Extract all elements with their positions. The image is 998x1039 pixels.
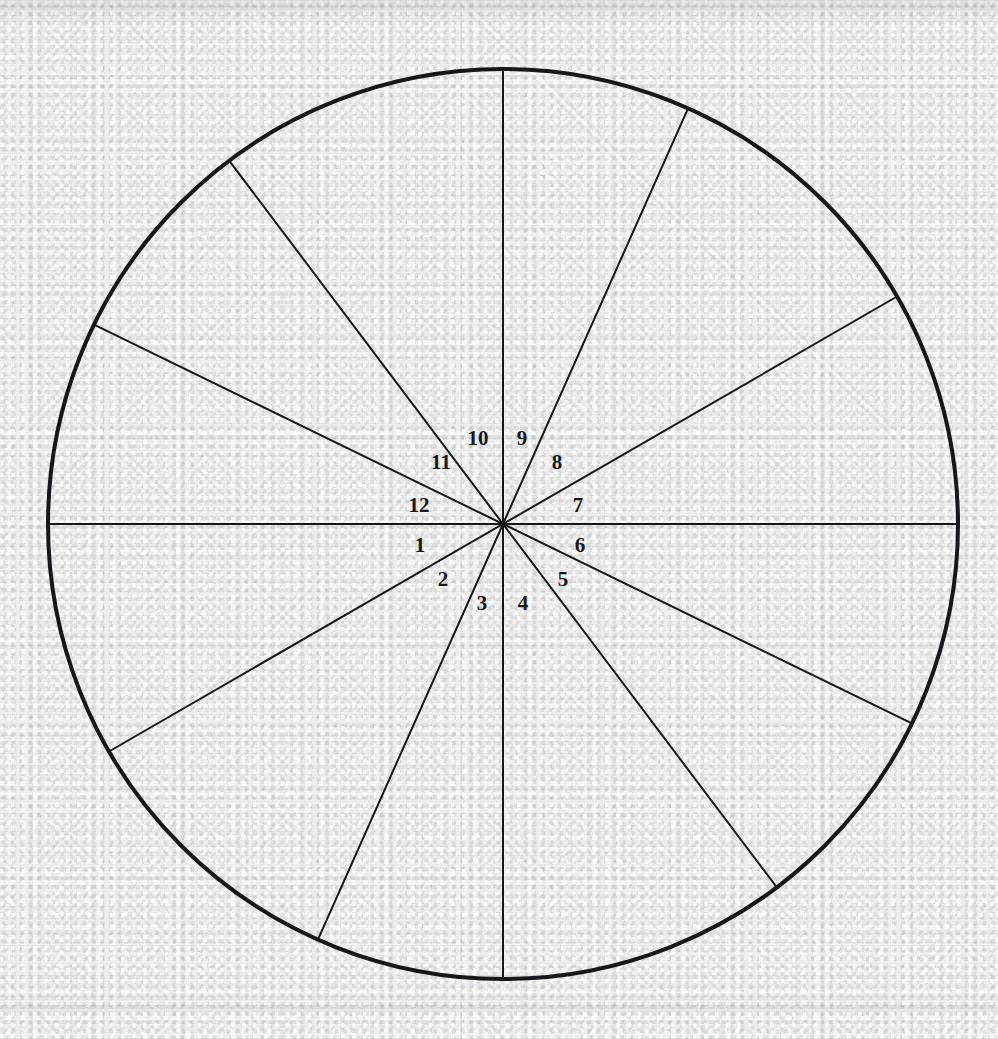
sector-label-3: 3 [477,593,488,614]
circle-sector-figure [0,0,998,1039]
sector-label-2: 2 [438,569,449,590]
radius-line-group [48,69,958,979]
sector-label-9: 9 [517,428,528,449]
sector-label-11: 11 [431,452,451,473]
sector-label-10: 10 [468,428,489,449]
sector-label-1: 1 [415,535,426,556]
sector-label-5: 5 [558,569,569,590]
sector-label-4: 4 [518,593,529,614]
sector-label-7: 7 [573,495,584,516]
sector-label-12: 12 [409,495,430,516]
sector-label-6: 6 [575,535,586,556]
sector-label-8: 8 [552,452,563,473]
